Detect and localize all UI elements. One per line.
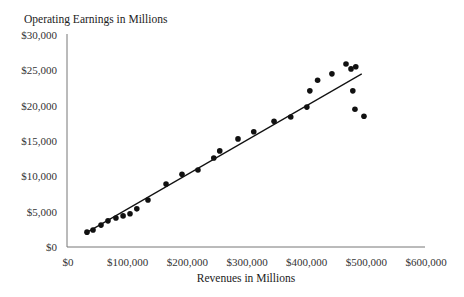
y-tick-label: $10,000 — [21, 170, 57, 182]
data-point — [195, 167, 201, 173]
x-tick-label: $400,000 — [286, 256, 328, 268]
data-point — [343, 61, 349, 67]
x-tick-label: $300,000 — [226, 256, 268, 268]
data-point — [350, 88, 356, 94]
data-point — [353, 64, 359, 70]
data-point — [84, 229, 90, 235]
data-point — [127, 211, 133, 217]
x-tick-labels: $0$100,000$200,000$300,000$400,000$500,0… — [63, 256, 448, 268]
x-axis-title: Revenues in Millions — [197, 272, 296, 284]
data-point — [307, 88, 313, 94]
scatter-chart: Operating Earnings in Millions $0$5,000$… — [0, 0, 464, 297]
data-point — [348, 66, 354, 72]
x-tick-label: $0 — [63, 256, 75, 268]
data-point — [90, 227, 96, 233]
x-tick-label: $500,000 — [346, 256, 388, 268]
y-tick-label: $5,000 — [27, 206, 58, 218]
data-point — [105, 218, 111, 224]
data-point — [288, 114, 294, 120]
y-axis-title: Operating Earnings in Millions — [24, 13, 168, 26]
data-point — [98, 222, 104, 228]
data-point — [361, 113, 367, 119]
y-tick-label: $25,000 — [21, 64, 57, 76]
data-point — [271, 118, 277, 124]
x-tick-label: $100,000 — [107, 256, 149, 268]
x-tick-label: $600,000 — [405, 256, 447, 268]
data-point — [211, 155, 217, 161]
y-tick-label: $20,000 — [21, 100, 57, 112]
data-point — [113, 215, 119, 221]
data-point — [329, 71, 335, 77]
data-point — [251, 129, 257, 135]
data-point — [134, 206, 140, 212]
y-axis: $0$5,000$10,000$15,000$20,000$25,000$30,… — [21, 29, 67, 253]
y-tick-labels: $0$5,000$10,000$15,000$20,000$25,000$30,… — [21, 29, 57, 253]
data-point — [235, 136, 241, 142]
data-point — [352, 106, 358, 112]
x-axis: $0$100,000$200,000$300,000$400,000$500,0… — [63, 247, 448, 268]
data-point — [145, 197, 151, 203]
y-tick-label: $0 — [46, 241, 58, 253]
x-tick-label: $200,000 — [167, 256, 209, 268]
data-point — [179, 171, 185, 177]
trend-line — [86, 74, 362, 233]
y-tick-label: $15,000 — [21, 135, 57, 147]
data-point — [217, 148, 223, 154]
data-point — [120, 213, 126, 219]
data-point — [163, 181, 169, 187]
data-point — [304, 104, 310, 110]
y-tick-label: $30,000 — [21, 29, 57, 41]
data-point — [315, 77, 321, 83]
